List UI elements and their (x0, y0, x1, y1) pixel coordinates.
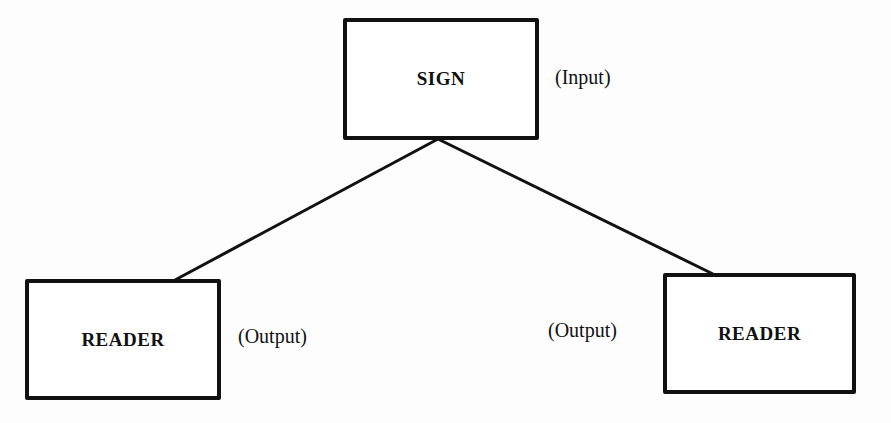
input-label: (Input) (555, 66, 611, 89)
sign-node: SIGN (343, 18, 539, 140)
sign-node-label: SIGN (417, 68, 465, 90)
reader-right-node-label: READER (718, 323, 801, 345)
edge-sign-to-reader-left (175, 139, 438, 280)
reader-left-node: READER (25, 279, 221, 400)
diagram-canvas: SIGN (Input) READER (Output) READER (Out… (0, 0, 891, 423)
output-left-label: (Output) (238, 325, 307, 348)
reader-left-node-label: READER (81, 329, 164, 351)
output-right-label: (Output) (548, 319, 617, 342)
edge-sign-to-reader-right (438, 139, 713, 274)
reader-right-node: READER (663, 273, 856, 394)
